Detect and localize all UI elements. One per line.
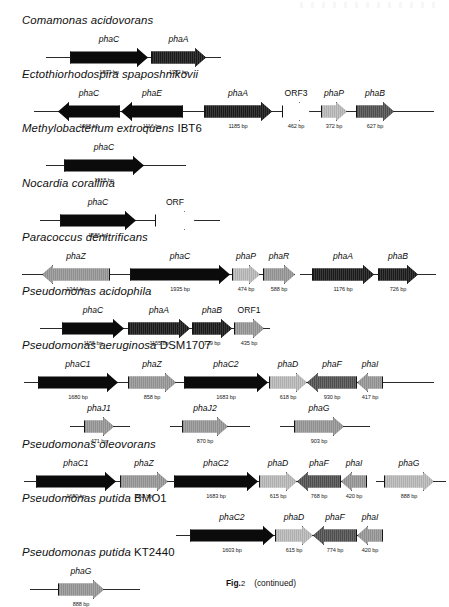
gene-size-label: 1683 bp [178, 394, 274, 400]
organism-name: Pseudomonas putida KT2440 [0, 546, 449, 558]
figure-caption-label: Fig. [226, 578, 241, 588]
gene-arrow [192, 319, 232, 338]
gene-arrow [64, 156, 144, 175]
gene-arrow [232, 265, 260, 284]
gene-label: phaR [263, 251, 295, 261]
organism-strain: IBT6 [177, 122, 201, 134]
gene-label: ORF [155, 197, 195, 207]
gene-label: phaC [130, 251, 230, 261]
organism-name: Pseudomonas aeruginosa DSM1707 [0, 339, 449, 351]
gene-arrow [204, 102, 272, 121]
gene-arrow [38, 373, 118, 392]
organism-species: Pseudomonas oleovorans [22, 438, 156, 450]
gene-label: phaC2 [184, 359, 268, 369]
gene-arrow [36, 472, 116, 491]
gene-label: phaF [313, 512, 357, 522]
gene-arrow [275, 526, 313, 545]
organism-block: Pseudomonas putida BMO1phaC21603 bpphaD6… [0, 492, 449, 504]
organism-species: Pseudomonas acidophila [22, 285, 151, 297]
gene-label: phaC2 [190, 512, 274, 522]
gene-label: phaG [58, 566, 104, 576]
gene-label: phaJ2 [182, 403, 228, 413]
gene-arrow [357, 526, 383, 545]
organism-block: Pseudomonas aeruginosa DSM1707phaC11680 … [0, 339, 449, 351]
gene-size-label: 858 bp [122, 394, 182, 400]
gene-label: phaB [356, 88, 394, 98]
gene-label: phaP [321, 88, 347, 98]
gene-arrow [182, 417, 228, 436]
organism-species: Nocardia corallina [22, 177, 115, 189]
organism-species: Methylobacterium extroquens [22, 122, 174, 134]
gene-arrow [190, 526, 274, 545]
gene-arrow [294, 417, 344, 436]
gene-label: phaA [151, 34, 206, 44]
organism-species: Comamonas acidovorans [22, 14, 153, 26]
gene-arrow [128, 319, 190, 338]
gene-arrow [312, 265, 374, 284]
organism-strain: KT2440 [134, 546, 175, 558]
gene-arrow [313, 526, 357, 545]
scan-artifact [300, 2, 440, 8]
organism-block: Pseudomonas acidophilaphaC1155 bpphaA115… [0, 285, 449, 297]
figure-caption-number: 2 [241, 579, 245, 588]
gene-label: phaI [341, 458, 367, 468]
gene-label: phaF [297, 458, 341, 468]
gene-label: phaB [378, 251, 418, 261]
gene-arrow [297, 472, 341, 491]
gene-arrow [259, 472, 297, 491]
gene-label: phaE [121, 88, 183, 98]
figure-caption: Fig.2(continued) [226, 578, 296, 588]
gene-label: phaZ [128, 359, 176, 369]
gene-label: phaJ1 [84, 403, 114, 413]
gene-arrow [282, 102, 310, 121]
organism-block: Paracoccus denitrificansphaZ1344 bpphaC1… [0, 231, 449, 243]
gene-arrow [174, 472, 258, 491]
gene-label: phaD [259, 458, 297, 468]
gene-label: phaD [275, 512, 313, 522]
organism-name: Pseudomonas acidophila [0, 285, 449, 297]
gene-arrow [130, 265, 230, 284]
gene-label: phaC1 [36, 458, 116, 468]
organism-species: Paracoccus denitrificans [22, 231, 148, 243]
organism-block: Methylobacterium extroquens IBT6phaC1918… [0, 122, 449, 134]
gene-arrow [356, 102, 394, 121]
gene-size-label: 1680 bp [32, 394, 124, 400]
organism-name: Methylobacterium extroquens IBT6 [0, 122, 449, 134]
gene-label: phaC [64, 142, 144, 152]
organism-name: Comamonas acidovorans [0, 14, 449, 26]
gene-label: phaC [62, 305, 124, 315]
gene-label: phaA [312, 251, 374, 261]
gene-label: phaZ [42, 251, 110, 261]
gene-arrow [128, 373, 176, 392]
gene-label: phaC [70, 34, 148, 44]
gene-arrow [58, 102, 120, 121]
gene-label: phaC [60, 197, 136, 207]
organism-species: Pseudomonas aeruginosa [22, 339, 157, 351]
organism-block: Pseudomonas putida KT2440phaG888 bp [0, 546, 449, 558]
gene-arrow [184, 373, 268, 392]
figure-caption-note: (continued) [254, 578, 296, 588]
gene-arrow [307, 373, 357, 392]
gene-locus-track: phaC11680 bpphaZ858 bpphaC21683 bpphaD61… [24, 361, 434, 401]
organism-name: Pseudomonas putida BMO1 [0, 492, 449, 504]
gene-arrow [62, 319, 124, 338]
gene-arrow [120, 472, 168, 491]
gene-label: phaP [232, 251, 260, 261]
gene-arrow [341, 472, 367, 491]
organism-block: Ectothiorhodospira spaposhnikoviiphaC106… [0, 68, 449, 80]
gene-label: phaG [294, 403, 344, 413]
gene-label: phaZ [120, 458, 168, 468]
gene-arrow [269, 373, 307, 392]
gene-arrow [60, 211, 136, 230]
gene-arrow [378, 265, 418, 284]
gene-size-label: 417 bp [351, 394, 389, 400]
gene-label: phaF [307, 359, 357, 369]
gene-locus-track: phaG888 bp [30, 568, 140, 607]
gene-arrow [321, 102, 347, 121]
gene-arrow [151, 48, 206, 67]
gene-arrow [70, 48, 148, 67]
gene-label: phaC2 [174, 458, 258, 468]
organism-name: Paracoccus denitrificans [0, 231, 449, 243]
gene-label: phaA [128, 305, 190, 315]
gene-label: phaC1 [38, 359, 118, 369]
